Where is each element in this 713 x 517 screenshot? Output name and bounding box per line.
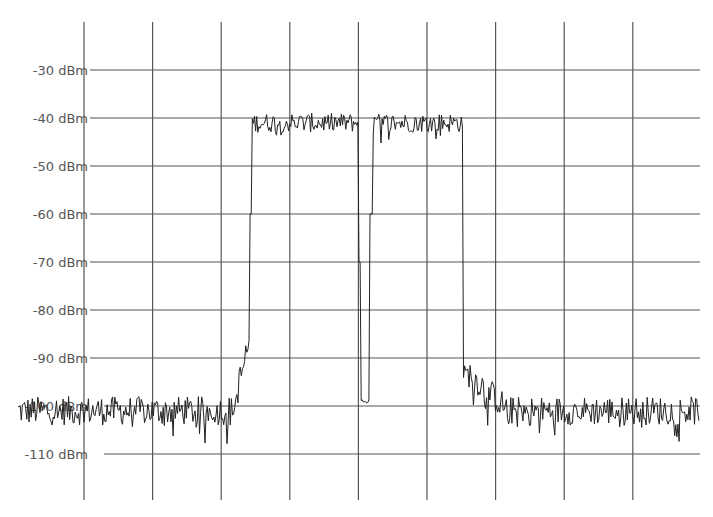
y-tick-label: -50 dBm xyxy=(33,159,88,174)
y-tick-label: -40 dBm xyxy=(33,111,88,126)
vertical-gridlines xyxy=(84,22,633,500)
y-tick-label: -70 dBm xyxy=(33,255,88,270)
y-tick-label: -90 dBm xyxy=(33,351,88,366)
y-tick-label: -30 dBm xyxy=(33,63,88,78)
spectrum-chart: -30 dBm-40 dBm-50 dBm-60 dBm-70 dBm-80 d… xyxy=(0,0,713,517)
y-tick-label: -80 dBm xyxy=(33,303,88,318)
y-tick-label: -110 dBm xyxy=(25,447,88,462)
y-tick-label: -60 dBm xyxy=(33,207,88,222)
